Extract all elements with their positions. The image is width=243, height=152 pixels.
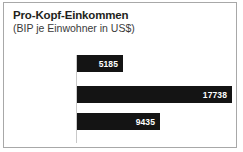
chart-plot-area: Iran 5185 Regionaler Durchschnitt 17738 … (0, 55, 243, 145)
page-title: Pro-Kopf-Einkommen (13, 9, 213, 22)
chart-subtitle: (BIP je Einwohner in US$) (13, 22, 213, 35)
bar-durchschnitt-schwellenlaender: 9435 (77, 113, 160, 130)
chart-figure: Pro-Kopf-Einkommen (BIP je Einwohner in … (0, 0, 243, 152)
bar-value-durchschnitt-schwellenlaender: 9435 (136, 117, 155, 127)
chart-title-block: Pro-Kopf-Einkommen (BIP je Einwohner in … (13, 9, 213, 35)
bar-value-regionaler-durchschnitt: 17738 (203, 90, 227, 100)
bar-value-iran: 5185 (99, 59, 118, 69)
bar-iran: 5185 (77, 55, 123, 72)
bar-regionaler-durchschnitt: 17738 (77, 86, 232, 103)
